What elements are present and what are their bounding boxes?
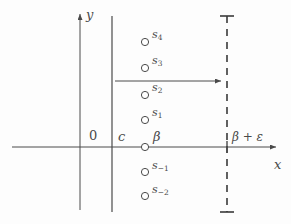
label-point-s3: s3	[152, 55, 162, 67]
point-s4	[141, 38, 148, 45]
figure-canvas: y x 0 c β + ε s4 s3 s2 s1 β s−1 s−2	[0, 0, 291, 224]
label-s2-sub: 2	[158, 86, 163, 95]
y-axis-label: y	[86, 8, 93, 21]
label-point-s4: s4	[152, 29, 162, 41]
point-s3	[141, 64, 148, 71]
label-point-s2: s2	[152, 82, 162, 94]
label-s1-sub: 1	[158, 111, 163, 120]
label-point-s-2: s−2	[152, 184, 169, 196]
beta-epsilon-label: β + ε	[232, 131, 263, 143]
label-s-1-sub: −1	[158, 164, 169, 173]
label-beta-base: β	[153, 129, 161, 144]
x-axis-label: x	[274, 158, 281, 171]
origin-label: 0	[89, 129, 97, 142]
label-s4-sub: 4	[158, 33, 163, 42]
point-s-2	[141, 192, 148, 199]
point-s1	[141, 116, 148, 123]
label-point-s-1: s−1	[152, 160, 169, 172]
label-point-beta: β	[153, 130, 161, 143]
point-beta	[141, 143, 148, 150]
label-s-2-sub: −2	[158, 188, 169, 197]
point-s2	[141, 91, 148, 98]
label-s3-sub: 3	[158, 59, 163, 68]
diagram-svg	[0, 0, 291, 224]
point-s-1	[141, 168, 148, 175]
label-point-s1: s1	[152, 107, 162, 119]
c-line-label: c	[118, 130, 125, 143]
